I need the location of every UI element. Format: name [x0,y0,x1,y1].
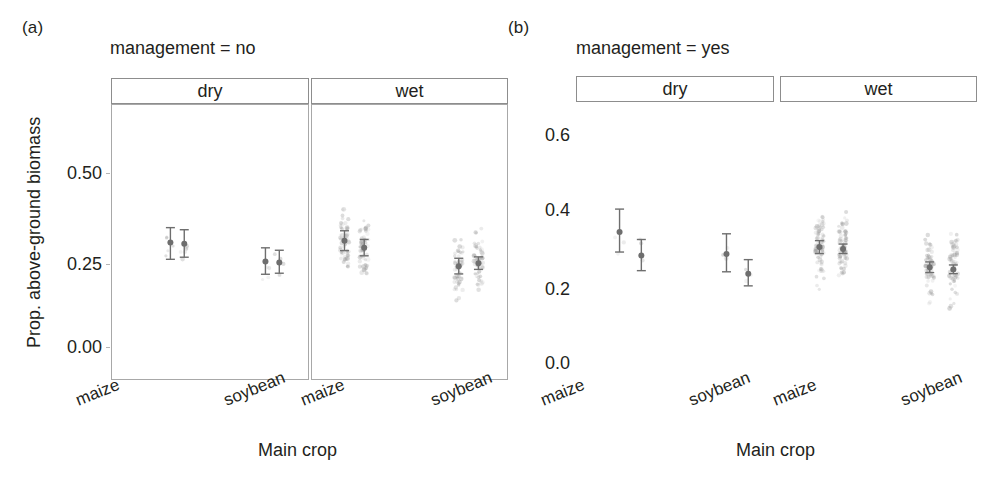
estimate-point [637,240,646,271]
x-axis-label-a: Main crop [258,440,337,461]
figure-root: (a) management = no Prop. above-ground b… [0,0,994,486]
y-tick-b-04: 0.4 [508,200,570,221]
y-tickmark-a-025 [106,264,110,265]
estimate-point [744,260,753,286]
y-tickmark-a-050 [106,173,110,174]
x-tick-a-wet-maize: maize [298,375,348,411]
y-tick-a-025: 0.25 [40,254,102,275]
x-tick-b-dry-maize: maize [538,375,588,411]
y-tick-a-000: 0.00 [40,337,102,358]
panel-b-tag: (b) [508,18,529,38]
strip-a-dry: dry [111,78,309,104]
y-tick-b-02: 0.2 [508,279,570,300]
y-tick-b-00: 0.0 [508,353,570,374]
estimate-point [815,241,824,254]
estimate-point [949,265,958,274]
y-tick-b-06: 0.6 [508,125,570,146]
plot-area-a-wet [311,104,508,380]
x-tick-a-dry-maize: maize [73,375,123,411]
x-tick-b-wet-maize: maize [770,375,820,411]
estimate-point [839,244,848,254]
y-tickmark-a-000 [106,347,110,348]
panel-a-title: management = no [110,38,256,59]
strip-a-wet: wet [311,78,508,104]
estimate-point [925,262,934,273]
x-axis-label-b: Main crop [736,440,815,461]
x-tick-b-dry-soybean: soybean [686,368,753,411]
estimate-point [615,209,624,252]
plot-area-a-dry [111,104,309,380]
strip-b-dry: dry [576,76,774,102]
panel-b-title: management = yes [576,38,730,59]
panel-a-tag: (a) [22,18,43,38]
estimate-point [722,234,731,272]
x-tick-b-wet-soybean: soybean [898,368,965,411]
y-tick-a-050: 0.50 [40,163,102,184]
y-axis-label: Prop. above-ground biomass [24,117,45,348]
strip-b-wet: wet [780,76,977,102]
